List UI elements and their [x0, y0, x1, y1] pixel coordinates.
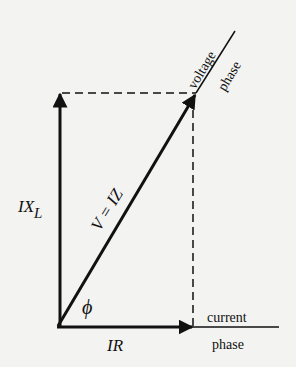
phasor-diagram: IXL V = IZ ϕ IR current phase voltage ph…	[0, 0, 296, 367]
current-phase-label: phase	[212, 337, 244, 352]
ir-label: IR	[106, 336, 124, 355]
v-equals-iz-label: V = IZ	[87, 185, 127, 234]
phi-angle-label: ϕ	[82, 296, 92, 319]
v-vector-arrow	[58, 95, 195, 326]
ixl-label: IXL	[17, 197, 42, 221]
voltage-phase-label: phase	[215, 58, 244, 93]
current-label: current	[207, 310, 247, 325]
